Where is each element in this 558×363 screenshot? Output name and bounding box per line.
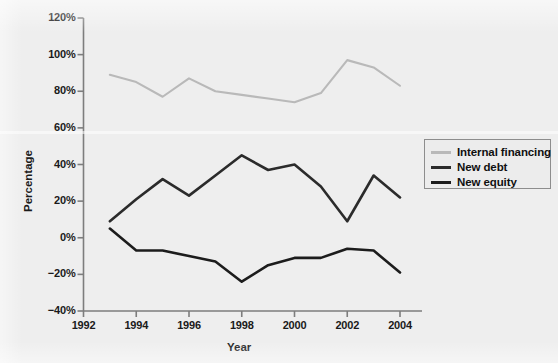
- legend-item-new-equity: New equity: [431, 175, 517, 189]
- legend-item-label: New equity: [457, 176, 517, 188]
- y-axis-title: Percentage: [22, 150, 34, 212]
- ytick-label: −20%: [32, 267, 76, 279]
- xtick-label: 2002: [323, 319, 371, 331]
- legend-item-label: Internal financing: [457, 146, 551, 158]
- ytick-label: 80%: [32, 84, 76, 96]
- ytick-label: 20%: [32, 194, 76, 206]
- xtick-label: 1992: [60, 319, 108, 331]
- legend-item-label: New debt: [457, 161, 507, 173]
- ytick-label: 40%: [32, 158, 76, 170]
- legend-swatch-icon: [431, 166, 451, 169]
- legend-swatch-icon: [431, 181, 451, 184]
- ytick-label: 100%: [32, 48, 76, 60]
- legend-item-new-debt: New debt: [431, 160, 507, 174]
- xtick-label: 2000: [271, 319, 319, 331]
- xtick-label: 2004: [376, 319, 424, 331]
- ytick-label: −40%: [32, 304, 76, 316]
- xtick-label: 1998: [218, 319, 266, 331]
- legend-swatch-icon: [431, 151, 451, 154]
- chart-figure: 120% 100% 80% 60% 40% 20% 0% −20% −40% 1…: [0, 0, 558, 363]
- legend-item-internal-financing: Internal financing: [431, 145, 551, 159]
- ytick-label: 120%: [32, 11, 76, 23]
- xtick-label: 1994: [112, 319, 160, 331]
- chart-legend: Internal financing New debt New equity: [424, 139, 551, 189]
- ytick-label: 60%: [32, 121, 76, 133]
- xtick-label: 1996: [165, 319, 213, 331]
- x-axis-title: Year: [227, 341, 251, 353]
- ytick-label: 0%: [32, 231, 76, 243]
